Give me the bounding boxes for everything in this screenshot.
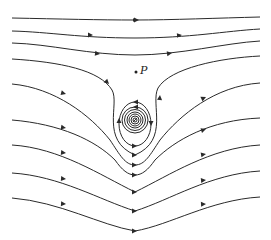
point-p-label: P [140,64,147,77]
streamlines [12,17,260,231]
point-p-dot [135,71,138,74]
streamline-diagram [0,0,271,240]
vortex [122,107,148,133]
